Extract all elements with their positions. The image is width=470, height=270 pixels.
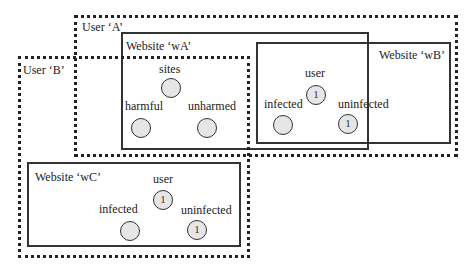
wc-infected-node (120, 221, 140, 241)
wc-uninfected-label: uninfected (181, 204, 232, 217)
wa-unharmed-node (197, 118, 217, 138)
wb-infected-node (273, 115, 293, 135)
user-a-label: User ‘A’ (82, 21, 123, 34)
wa-sites-node (161, 78, 181, 98)
wc-user-label: user (153, 173, 173, 186)
website-wa-label: Website ‘wA’ (126, 40, 191, 53)
wa-harmful-label: harmful (125, 100, 163, 113)
wc-infected-label: infected (99, 203, 138, 216)
wb-user-node: 1 (306, 85, 326, 105)
wc-user-node: 1 (153, 190, 173, 210)
user-b-label: User ‘B’ (23, 64, 65, 77)
website-wc-label: Website ‘wC’ (35, 171, 101, 184)
wb-uninfected-label: uninfected (338, 98, 389, 111)
website-wb-label: Website ‘wB’ (379, 49, 445, 62)
wa-unharmed-label: unharmed (188, 100, 236, 113)
wb-uninfected-node: 1 (338, 114, 358, 134)
wa-harmful-node (131, 118, 151, 138)
wb-infected-label: infected (264, 98, 303, 111)
wb-user-label: user (305, 67, 325, 80)
wa-sites-label: sites (159, 63, 180, 76)
wc-uninfected-node: 1 (187, 220, 207, 240)
